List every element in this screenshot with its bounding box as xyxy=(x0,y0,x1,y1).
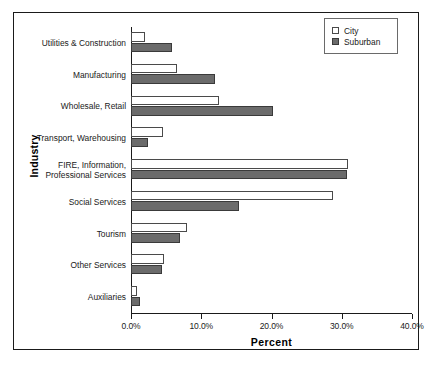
category-group: Tourism xyxy=(131,218,412,250)
category-label: Tourism xyxy=(14,229,126,239)
category-label: Wholesale, Retail xyxy=(14,101,126,111)
bar-suburban xyxy=(131,138,148,148)
plot-area: Utilities & ConstructionManufacturingWho… xyxy=(131,27,412,313)
bar-city xyxy=(131,32,145,42)
bar-suburban xyxy=(131,170,347,180)
bar-suburban xyxy=(131,201,239,211)
category-label: FIRE, Information, Professional Services xyxy=(14,160,126,180)
bar-suburban xyxy=(131,265,162,275)
category-group: Wholesale, Retail xyxy=(131,91,412,123)
bar-city xyxy=(131,159,348,169)
category-label: Transport, Warehousing xyxy=(14,133,126,143)
legend-swatch-city-icon xyxy=(332,27,339,34)
legend-label-suburban: Suburban xyxy=(344,37,380,47)
bar-suburban xyxy=(131,106,273,116)
bar-city xyxy=(131,286,137,296)
x-tick-mark xyxy=(412,314,413,319)
legend-swatch-suburban-icon xyxy=(332,38,339,45)
legend-label-city: City xyxy=(344,26,358,36)
bar-city xyxy=(131,254,164,264)
bar-city xyxy=(131,191,333,201)
x-tick-label: 30.0% xyxy=(330,321,354,331)
legend-item-city: City xyxy=(332,25,390,36)
x-axis-title: Percent xyxy=(131,336,412,348)
bar-suburban xyxy=(131,233,180,243)
bar-city xyxy=(131,127,163,137)
category-group: Other Services xyxy=(131,249,412,281)
chart-legend: City Suburban xyxy=(324,18,398,54)
x-tick-mark xyxy=(131,314,132,319)
bar-city xyxy=(131,64,177,74)
bar-suburban xyxy=(131,74,215,84)
x-tick-label: 40.0% xyxy=(400,321,424,331)
category-label: Manufacturing xyxy=(14,70,126,80)
category-group: Auxiliaries xyxy=(131,281,412,313)
category-group: Social Services xyxy=(131,186,412,218)
x-tick-mark xyxy=(342,314,343,319)
category-group: Transport, Warehousing xyxy=(131,122,412,154)
bar-city xyxy=(131,96,219,106)
bar-suburban xyxy=(131,43,172,53)
category-label: Other Services xyxy=(14,260,126,270)
x-tick-mark xyxy=(272,314,273,319)
x-tick-mark xyxy=(201,314,202,319)
category-label: Social Services xyxy=(14,197,126,207)
y-axis-title: Industry xyxy=(28,116,40,196)
x-tick-label: 20.0% xyxy=(260,321,284,331)
bar-suburban xyxy=(131,297,140,307)
category-label: Utilities & Construction xyxy=(14,38,126,48)
category-group: Manufacturing xyxy=(131,59,412,91)
bar-city xyxy=(131,223,187,233)
x-tick-label: 0.0% xyxy=(122,321,141,331)
category-label: Auxiliaries xyxy=(14,292,126,302)
chart-figure: 0.0%10.0%20.0%30.0%40.0% Percent Industr… xyxy=(0,0,431,376)
x-tick-label: 10.0% xyxy=(189,321,213,331)
legend-item-suburban: Suburban xyxy=(332,36,390,47)
category-group: FIRE, Information, Professional Services xyxy=(131,154,412,186)
